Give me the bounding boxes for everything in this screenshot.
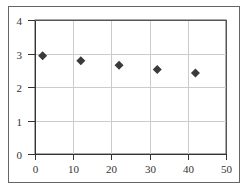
x-tick-label: 10 bbox=[68, 163, 80, 175]
scatter-chart: 0102030405001234 bbox=[0, 0, 248, 189]
x-tick-label: 0 bbox=[33, 163, 39, 175]
chart-frame bbox=[9, 7, 240, 183]
x-tick-label: 20 bbox=[106, 163, 118, 175]
y-tick-label: 2 bbox=[17, 82, 23, 94]
x-tick-label: 30 bbox=[145, 163, 157, 175]
x-tick-label: 40 bbox=[183, 163, 195, 175]
y-tick-label: 0 bbox=[17, 149, 23, 161]
y-tick-label: 3 bbox=[17, 49, 23, 61]
y-tick-label: 4 bbox=[17, 15, 23, 27]
x-tick-label: 50 bbox=[221, 163, 233, 175]
y-tick-label: 1 bbox=[17, 116, 23, 128]
